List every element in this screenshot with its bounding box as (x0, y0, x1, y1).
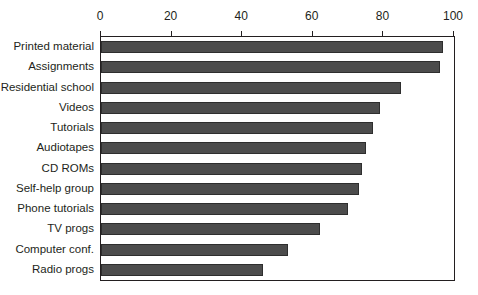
bar (101, 183, 359, 195)
category-label: TV progs (47, 222, 94, 234)
bar (101, 223, 320, 235)
category-label: CD ROMs (42, 162, 94, 174)
axis-tick (241, 31, 242, 36)
axis-tick-label: 0 (97, 10, 104, 22)
axis-tick-label: 80 (376, 10, 389, 22)
category-label: Computer conf. (15, 243, 94, 255)
axis-tick (100, 31, 101, 36)
bar (101, 203, 348, 215)
axis-tick-label: 40 (235, 10, 248, 22)
category-label: Printed material (13, 40, 94, 52)
bar (101, 264, 263, 276)
bars-layer (101, 37, 454, 280)
bar (101, 61, 440, 73)
category-axis-labels: Printed materialAssignmentsResidential s… (0, 36, 94, 281)
category-label: Radio progs (32, 263, 94, 275)
category-label: Tutorials (50, 121, 94, 133)
bar (101, 244, 288, 256)
bar (101, 142, 366, 154)
category-label: Residential school (1, 81, 94, 93)
bar (101, 163, 362, 175)
bar-chart: Printed materialAssignmentsResidential s… (0, 0, 478, 295)
category-label: Self-help group (16, 182, 94, 194)
bar (101, 102, 380, 114)
category-label: Assignments (28, 60, 94, 72)
axis-tick (382, 31, 383, 36)
axis-tick (453, 31, 454, 36)
category-label: Phone tutorials (17, 202, 94, 214)
axis-tick-label: 20 (164, 10, 177, 22)
bar (101, 41, 443, 53)
category-label: Videos (59, 101, 94, 113)
bar (101, 122, 373, 134)
axis-tick-label: 100 (443, 10, 463, 22)
axis-tick-label: 60 (305, 10, 318, 22)
axis-tick (171, 31, 172, 36)
axis-tick (312, 31, 313, 36)
bar (101, 82, 401, 94)
category-label: Audiotapes (36, 141, 94, 153)
